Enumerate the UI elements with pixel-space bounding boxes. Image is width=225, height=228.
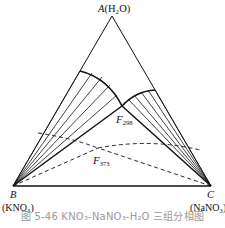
svg-text:A(H₂O): A(H₂O)	[97, 3, 131, 15]
figure-caption: 图 5-46 KNO₃-NaNO₃-H₂O 三组分相图	[0, 208, 225, 223]
svg-text:F373: F373	[92, 154, 109, 167]
kno3-solubility-curve-298	[80, 71, 122, 106]
tie-lines-c	[122, 90, 211, 186]
tie-lines-b	[13, 71, 122, 186]
vertex-a-label: A(H₂O)	[97, 3, 131, 15]
ternary-phase-diagram: A(H₂O) B (KNO₃) C (NaNO₃) F298 F373	[0, 0, 225, 228]
tie-line-b-f373	[13, 148, 98, 186]
nano3-solubility-curve-373	[98, 143, 200, 150]
svg-text:C: C	[207, 189, 215, 200]
tie-line-c-f373	[98, 148, 211, 186]
point-f298-label: F298	[115, 113, 132, 126]
svg-text:F298: F298	[115, 113, 132, 126]
svg-text:B: B	[10, 189, 17, 200]
point-f373-label: F373	[92, 154, 109, 167]
solubility-curves-298	[80, 71, 155, 106]
